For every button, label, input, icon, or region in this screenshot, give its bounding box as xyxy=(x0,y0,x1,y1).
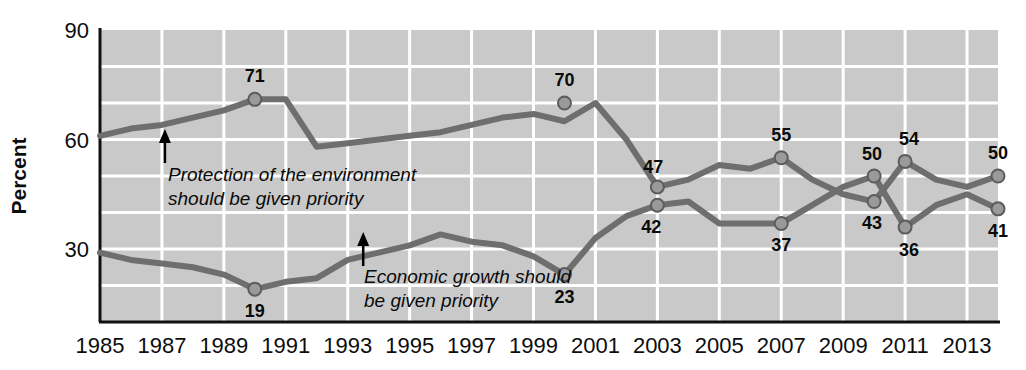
x-tick-label: 2005 xyxy=(695,333,744,358)
x-tick-label: 1991 xyxy=(261,333,310,358)
x-tick-label: 2007 xyxy=(757,333,806,358)
x-tick-label: 2009 xyxy=(819,333,868,358)
data-point-marker xyxy=(651,199,664,212)
data-point-marker xyxy=(992,170,1005,183)
annotation-line: should be given priority xyxy=(168,188,365,209)
data-point-marker xyxy=(899,155,912,168)
x-tick-label: 2011 xyxy=(881,333,928,358)
chart-canvas: 906030 198519871989199119931995199719992… xyxy=(0,0,1026,370)
line-chart: 906030 198519871989199119931995199719992… xyxy=(0,0,1026,370)
y-tick-label: 60 xyxy=(65,128,89,153)
y-axis-tick-labels: 906030 xyxy=(65,18,89,262)
data-value-label: 43 xyxy=(862,213,882,233)
data-value-label: 41 xyxy=(988,221,1008,241)
data-value-label: 23 xyxy=(554,287,574,307)
x-axis-tick-labels: 1985198719891991199319951997199920012003… xyxy=(76,333,992,358)
annotation-line: Economic growth should xyxy=(364,266,572,287)
annotation-line: be given priority xyxy=(364,290,500,311)
x-tick-label: 1987 xyxy=(137,333,186,358)
data-point-marker xyxy=(899,221,912,234)
data-point-marker xyxy=(992,202,1005,215)
x-tick-label: 1995 xyxy=(385,333,434,358)
data-point-marker xyxy=(868,170,881,183)
y-tick-label: 90 xyxy=(65,18,89,43)
data-value-label: 70 xyxy=(554,70,574,90)
data-value-label: 54 xyxy=(899,129,919,149)
data-point-marker xyxy=(775,151,788,164)
data-value-label: 71 xyxy=(245,66,265,86)
data-value-label: 37 xyxy=(771,235,791,255)
x-tick-label: 1989 xyxy=(199,333,248,358)
y-tick-label: 30 xyxy=(65,237,89,262)
x-tick-label: 1999 xyxy=(509,333,558,358)
data-point-marker xyxy=(651,180,664,193)
data-value-label: 36 xyxy=(899,240,919,260)
data-value-label: 42 xyxy=(641,217,661,237)
y-axis-title: Percent xyxy=(7,137,30,214)
x-tick-label: 1993 xyxy=(323,333,372,358)
data-value-label: 55 xyxy=(771,125,791,145)
data-value-label: 50 xyxy=(988,143,1008,163)
data-point-marker xyxy=(775,217,788,230)
x-tick-label: 2013 xyxy=(943,333,992,358)
data-point-marker xyxy=(558,97,571,110)
data-value-label: 47 xyxy=(643,157,663,177)
data-value-label: 19 xyxy=(245,301,265,321)
data-point-marker xyxy=(248,93,261,106)
annotation-line: Protection of the environment xyxy=(168,164,417,185)
x-tick-label: 2001 xyxy=(571,333,620,358)
data-point-marker xyxy=(868,195,881,208)
x-tick-label: 2003 xyxy=(633,333,682,358)
y-axis-title-text: Percent xyxy=(7,137,30,214)
x-tick-label: 1985 xyxy=(76,333,125,358)
data-value-label: 50 xyxy=(862,144,882,164)
data-point-marker xyxy=(248,283,261,296)
x-tick-label: 1997 xyxy=(447,333,496,358)
